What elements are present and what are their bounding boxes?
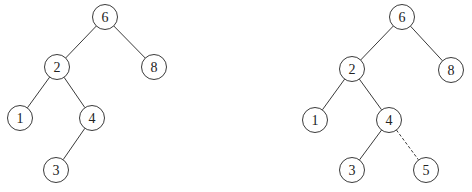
tree-node: 8 — [439, 58, 464, 83]
tree-before-edges — [27, 26, 145, 160]
node-label: 8 — [448, 63, 455, 78]
node-label: 3 — [349, 163, 356, 178]
node-label: 4 — [89, 111, 96, 126]
edge-6-8 — [114, 26, 146, 58]
tree-after-nodes: 6281435 — [303, 5, 464, 183]
tree-node: 5 — [414, 158, 439, 183]
tree-node: 6 — [390, 5, 415, 30]
tree-node: 2 — [340, 57, 365, 82]
bst-insertion-diagram: 6281436281435 — [0, 0, 472, 192]
tree-node: 4 — [80, 106, 105, 131]
tree-node: 3 — [44, 158, 69, 183]
edge-2-1 — [27, 77, 49, 108]
edges-layer — [27, 26, 442, 160]
nodes-layer: 6281436281435 — [8, 5, 464, 183]
edge-2-4 — [64, 77, 85, 107]
edge-4-3 — [359, 130, 381, 160]
edge-4-5-dashed — [396, 130, 418, 160]
node-label: 1 — [312, 113, 319, 128]
node-label: 3 — [53, 163, 60, 178]
edge-4-3 — [63, 128, 85, 159]
tree-after-edges — [322, 26, 442, 160]
edge-6-2 — [361, 26, 394, 60]
tree-node: 8 — [142, 55, 167, 80]
node-label: 2 — [349, 62, 356, 77]
edge-6-2 — [66, 26, 97, 58]
node-label: 1 — [17, 111, 24, 126]
edge-2-1 — [322, 79, 344, 110]
tree-node: 1 — [8, 106, 33, 131]
node-label: 6 — [399, 10, 406, 25]
node-label: 4 — [386, 113, 393, 128]
tree-node: 4 — [377, 108, 402, 133]
tree-before-nodes: 628143 — [8, 5, 167, 183]
node-label: 6 — [102, 10, 109, 25]
node-label: 5 — [423, 163, 430, 178]
tree-node: 6 — [93, 5, 118, 30]
edge-2-4 — [359, 79, 381, 110]
diagram-svg: 6281436281435 — [0, 0, 472, 192]
edge-6-8 — [410, 26, 442, 61]
node-label: 2 — [54, 60, 61, 75]
tree-node: 2 — [45, 55, 70, 80]
tree-node: 3 — [340, 158, 365, 183]
tree-node: 1 — [303, 108, 328, 133]
node-label: 8 — [151, 60, 158, 75]
